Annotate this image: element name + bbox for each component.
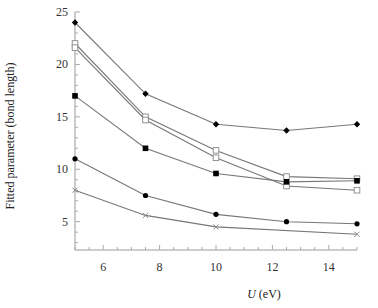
series-line-filled-diamond [75,23,357,131]
data-point-open-square-upper [284,174,290,180]
y-tick-label: 25 [56,5,68,19]
x-tick-label: 12 [266,260,278,274]
data-point-filled-diamond [354,121,360,127]
y-tick-label: 10 [56,162,68,176]
data-point-filled-diamond [213,121,219,127]
x-axis-title: U (eV) [247,287,281,301]
x-tick-label: 10 [210,260,222,274]
data-point-filled-diamond [283,127,289,133]
chart: 51015202568101214 Fitted parameter (bond… [0,0,378,308]
y-axis-title: Fitted parameter (bond length) [3,63,17,210]
data-point-open-square-upper [213,148,219,154]
data-point-filled-circle [284,219,289,224]
data-point-filled-square [284,179,290,185]
data-point-filled-square [143,145,149,151]
data-point-open-square-lower [213,155,219,161]
x-tick-label: 6 [100,260,106,274]
x-tick-label: 8 [157,260,163,274]
data-point-filled-circle [354,221,359,226]
axes: 51015202568101214 [56,5,357,274]
series-filled-circle [72,156,359,226]
data-point-filled-circle [72,156,77,161]
x-axis-title-unit: (eV) [256,287,281,301]
series-filled-diamond [72,19,360,133]
data-point-open-square-lower [354,187,360,193]
data-point-filled-circle [143,193,148,198]
y-tick-label: 5 [62,215,68,229]
y-tick-label: 20 [56,57,68,71]
data-point-open-square-lower [72,45,78,51]
data-point-filled-square [354,178,360,184]
series-line-filled-square [75,96,357,182]
x-tick-label: 14 [323,260,335,274]
data-point-filled-square [72,93,78,99]
y-tick-label: 15 [56,110,68,124]
series-group [72,19,360,236]
data-point-filled-circle [213,212,218,217]
data-point-filled-square [213,171,219,177]
series-filled-square [72,93,360,185]
data-point-open-square-lower [143,117,149,123]
series-line-open-square-lower [75,48,357,191]
